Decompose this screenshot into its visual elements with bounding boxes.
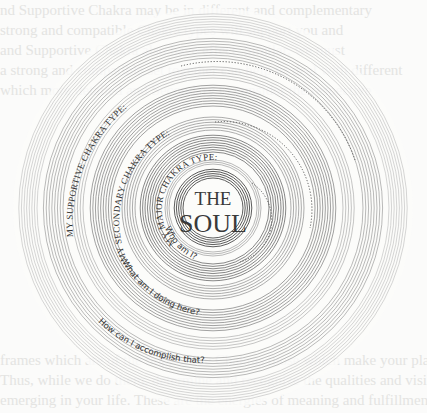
center-title-soul: SOUL bbox=[179, 209, 247, 238]
center-title-the: THE bbox=[195, 188, 232, 209]
soul-chakra-diagram: THE SOUL MY MAJOR CHAKRA TYPE: MY SECOND… bbox=[0, 0, 427, 413]
